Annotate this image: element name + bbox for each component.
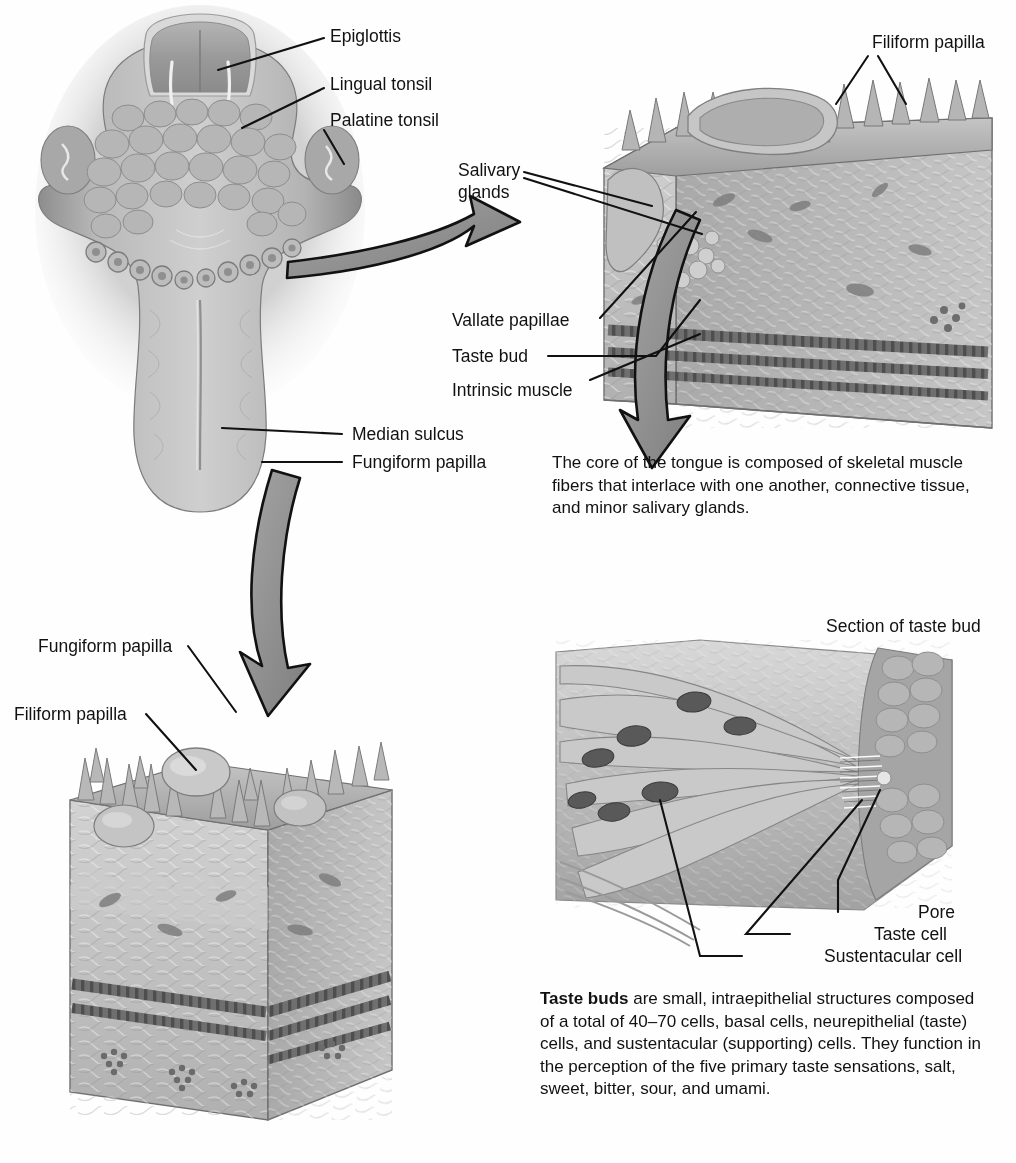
leader-taste-bud bbox=[548, 300, 700, 356]
leader-epiglottis bbox=[218, 38, 324, 70]
leader-intrinsic-muscle bbox=[590, 334, 700, 380]
leader-vallate-papillae bbox=[600, 212, 696, 318]
leader-filiform-bl bbox=[146, 714, 196, 770]
leader-pore bbox=[838, 790, 880, 912]
leader-palatine-tonsil bbox=[324, 130, 344, 164]
label-pore: Pore bbox=[918, 902, 955, 923]
label-sustentacular-cell: Sustentacular cell bbox=[824, 946, 962, 967]
arrow-vallate-to-caption bbox=[620, 210, 700, 468]
label-epiglottis: Epiglottis bbox=[330, 26, 401, 47]
label-intrinsic-muscle: Intrinsic muscle bbox=[452, 380, 573, 401]
leader-filiform-2 bbox=[878, 56, 906, 104]
label-vallate-papillae: Vallate papillae bbox=[452, 310, 569, 331]
label-filiform-papilla-bottom-left: Filiform papilla bbox=[14, 704, 127, 725]
arrow-tongue-to-vallate-block bbox=[287, 196, 520, 278]
label-fungiform-papilla-bottom-left: Fungiform papilla bbox=[38, 636, 172, 657]
arrow-tongue-to-fungiform-block bbox=[240, 470, 310, 716]
leader-median-sulcus bbox=[222, 428, 342, 434]
leader-salivary-2 bbox=[524, 178, 702, 234]
leader-lingual-tonsil bbox=[242, 88, 324, 128]
label-median-sulcus: Median sulcus bbox=[352, 424, 464, 445]
caption-taste-buds: Taste buds are small, intraepithelial st… bbox=[540, 988, 984, 1101]
caption-core-of-tongue: The core of the tongue is composed of sk… bbox=[552, 452, 980, 520]
label-lingual-tonsil: Lingual tonsil bbox=[330, 74, 432, 95]
leader-taste-cell bbox=[746, 800, 862, 934]
label-salivary-glands-line1: Salivary bbox=[458, 160, 520, 181]
label-taste-cell: Taste cell bbox=[874, 924, 947, 945]
label-filiform-papilla-top: Filiform papilla bbox=[872, 32, 985, 53]
label-palatine-tonsil: Palatine tonsil bbox=[330, 110, 439, 131]
label-salivary-glands-line2: glands bbox=[458, 182, 510, 203]
caption-taste-buds-lead: Taste buds bbox=[540, 989, 628, 1008]
figure-canvas: Epiglottis Lingual tonsil Palatine tonsi… bbox=[0, 0, 1016, 1163]
leader-sustentacular-cell bbox=[660, 800, 742, 956]
leader-salivary-1 bbox=[524, 172, 652, 206]
label-section-of-taste-bud: Section of taste bud bbox=[826, 616, 981, 637]
taste-bud-section-illustration bbox=[556, 640, 952, 946]
vallate-tissue-block-illustration bbox=[604, 78, 992, 428]
leader-filiform-1 bbox=[836, 56, 868, 104]
fungiform-tissue-block-illustration bbox=[70, 742, 392, 1120]
dorsal-tongue-illustration bbox=[35, 5, 365, 512]
label-fungiform-papilla-right: Fungiform papilla bbox=[352, 452, 486, 473]
leader-fungiform-bl bbox=[188, 646, 236, 712]
label-taste-bud: Taste bud bbox=[452, 346, 528, 367]
